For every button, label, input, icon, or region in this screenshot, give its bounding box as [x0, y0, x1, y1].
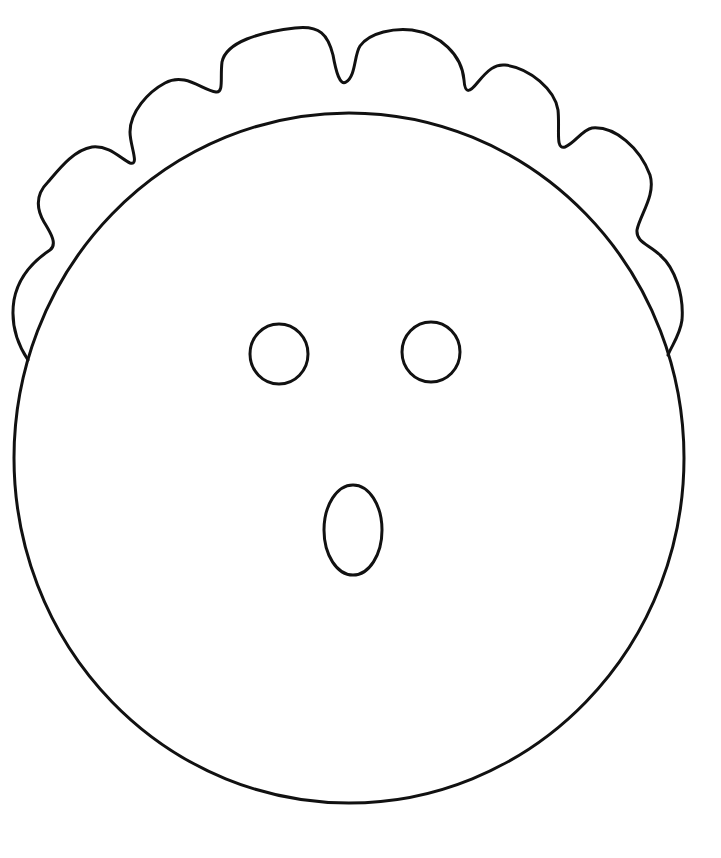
face-outline — [14, 113, 684, 803]
hair-outline — [13, 27, 682, 360]
left-eye — [250, 324, 308, 384]
mouth — [324, 485, 382, 575]
right-eye — [402, 322, 460, 382]
surprised-face-drawing — [0, 0, 721, 858]
coloring-page — [0, 0, 721, 858]
